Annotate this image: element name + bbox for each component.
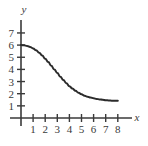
chart-figure: 12345678 1234567 x y: [0, 0, 148, 146]
x-tick-label: 1: [30, 123, 36, 135]
y-axis-tick-labels: 1234567: [9, 27, 15, 112]
y-tick-label: 3: [9, 76, 15, 88]
y-axis-label: y: [21, 3, 27, 15]
x-tick-label: 8: [115, 123, 121, 135]
y-tick-label: 6: [9, 39, 15, 51]
x-tick-label: 2: [42, 123, 48, 135]
chart-plot-area: 12345678 1234567 x y: [0, 0, 148, 146]
y-tick-label: 2: [9, 88, 15, 100]
y-tick-label: 5: [9, 51, 15, 63]
data-series-line: [21, 45, 118, 101]
data-series-group: [21, 45, 118, 101]
y-tick-label: 7: [9, 27, 15, 39]
x-axis-label: x: [134, 111, 140, 123]
x-tick-label: 3: [55, 123, 61, 135]
y-tick-label: 4: [9, 63, 15, 75]
x-tick-label: 6: [91, 123, 97, 135]
x-axis-tick-labels: 12345678: [30, 123, 121, 135]
x-tick-label: 4: [67, 123, 73, 135]
y-tick-label: 1: [9, 100, 15, 112]
x-tick-label: 5: [79, 123, 85, 135]
axis-lines: [10, 20, 132, 126]
x-tick-label: 7: [103, 123, 109, 135]
